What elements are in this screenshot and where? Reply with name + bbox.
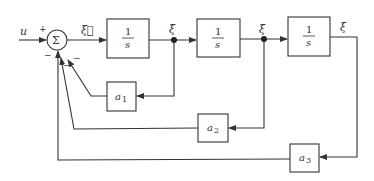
input-label: u bbox=[20, 25, 27, 38]
svg-text:s: s bbox=[215, 39, 220, 50]
branch-dot-2 bbox=[261, 36, 267, 42]
svg-text:1: 1 bbox=[125, 26, 131, 37]
gain-a2-label: a 2 bbox=[207, 122, 219, 135]
feedback-a1-out-line bbox=[68, 60, 107, 96]
svg-text:s: s bbox=[306, 37, 311, 48]
integrator-1-tf: 1 s bbox=[122, 26, 134, 50]
svg-text:1: 1 bbox=[122, 95, 127, 104]
sign-minus-2: − bbox=[63, 60, 71, 70]
svg-text:1: 1 bbox=[306, 24, 312, 35]
svg-text:a: a bbox=[207, 122, 213, 133]
sign-minus-1: − bbox=[44, 50, 52, 60]
sum-symbol: Σ bbox=[52, 34, 60, 47]
sign-minus-3: − bbox=[73, 53, 81, 63]
svg-text:1: 1 bbox=[215, 26, 221, 37]
signal-label-jerk: ξ⃛ bbox=[81, 24, 94, 37]
gain-a2-box bbox=[198, 114, 228, 142]
feedback-a2-in-line bbox=[229, 39, 264, 128]
svg-text:a: a bbox=[115, 91, 121, 102]
signal-label-vel: ξ̇ bbox=[259, 23, 266, 36]
svg-text:3: 3 bbox=[306, 156, 311, 165]
feedback-a1-in-line bbox=[137, 40, 174, 96]
integrator-3-tf: 1 s bbox=[303, 24, 315, 48]
block-diagram: u + Σ − − − ξ⃛ ξ̈ ξ̇ ξ 1 s 1 s 1 s a 1 a… bbox=[0, 0, 374, 181]
svg-text:s: s bbox=[125, 39, 130, 50]
feedback-a2-out-line bbox=[61, 58, 198, 129]
signal-label-pos: ξ bbox=[340, 21, 347, 34]
integrator-2-tf: 1 s bbox=[212, 26, 224, 50]
signal-label-accel: ξ̈ bbox=[169, 23, 176, 36]
gain-a1-label: a 1 bbox=[115, 91, 127, 104]
svg-text:2: 2 bbox=[214, 126, 219, 135]
sign-plus: + bbox=[39, 24, 47, 34]
gain-a3-label: a 3 bbox=[299, 152, 311, 165]
branch-dot-1 bbox=[171, 37, 177, 43]
svg-text:a: a bbox=[299, 152, 305, 163]
output-line bbox=[320, 37, 357, 157]
